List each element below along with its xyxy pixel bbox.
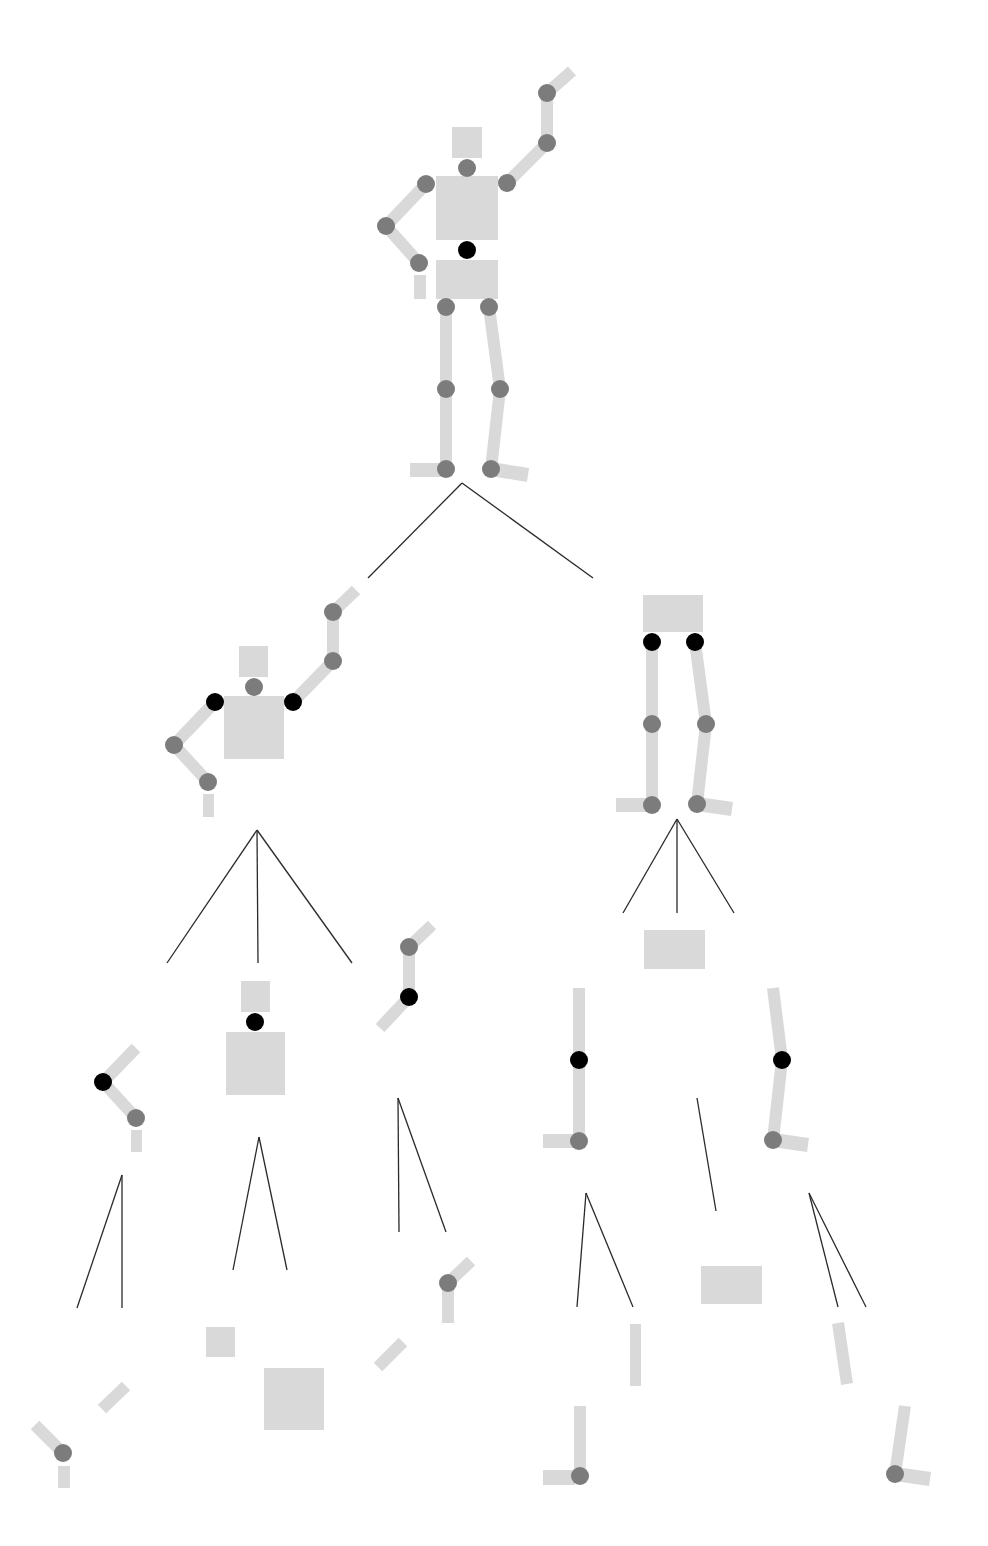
edge-line bbox=[398, 1098, 446, 1232]
node-full-body bbox=[377, 71, 572, 478]
elbow-cut-joint-icon bbox=[400, 988, 418, 1006]
waist-cut-joint-icon bbox=[458, 241, 476, 259]
leaf-torso bbox=[264, 1368, 324, 1430]
left-ankle-joint-icon bbox=[643, 796, 661, 814]
ankle-joint-icon bbox=[764, 1131, 782, 1149]
right-elbow-joint-icon bbox=[538, 134, 556, 152]
foot-segment bbox=[543, 1470, 575, 1485]
edge-line bbox=[257, 830, 352, 963]
ankle-joint-icon bbox=[570, 1132, 588, 1150]
edge-line bbox=[586, 1193, 633, 1307]
node-lower-body bbox=[616, 595, 732, 814]
elbow-cut-joint-icon bbox=[94, 1073, 112, 1091]
hand-segment bbox=[58, 1466, 70, 1488]
edge-left-arm-to-parts bbox=[77, 1175, 122, 1308]
left-wrist-joint-icon bbox=[410, 254, 428, 272]
right-ankle-joint-icon bbox=[688, 795, 706, 813]
left-shoulder-joint-icon bbox=[417, 175, 435, 193]
right-ankle-joint-icon bbox=[482, 460, 500, 478]
nodes-layer bbox=[35, 71, 930, 1488]
node-left-leg bbox=[543, 988, 588, 1150]
right-shoulder-cut-joint-icon bbox=[284, 693, 302, 711]
neck-joint-icon bbox=[245, 678, 263, 696]
leaf-right-upper-arm bbox=[378, 1342, 403, 1367]
node-right-leg bbox=[764, 988, 808, 1149]
right-knee-joint-icon bbox=[491, 380, 509, 398]
left-hand-segment bbox=[414, 275, 426, 299]
wrist-joint-icon bbox=[54, 1444, 72, 1462]
torso-segment bbox=[436, 176, 498, 240]
pelvis-segment bbox=[643, 595, 703, 632]
leaf-right-thigh bbox=[838, 1323, 847, 1384]
edge-left-leg-to-parts bbox=[577, 1193, 633, 1307]
pelvis-segment bbox=[436, 260, 498, 299]
head-segment bbox=[239, 646, 268, 677]
right-shin-segment bbox=[697, 724, 706, 804]
ankle-joint-icon bbox=[571, 1467, 589, 1485]
edge-line bbox=[257, 830, 258, 963]
left-hand-segment bbox=[203, 794, 214, 817]
torso-segment bbox=[264, 1368, 324, 1430]
leaf-pelvis bbox=[701, 1266, 762, 1304]
thigh-segment bbox=[773, 988, 782, 1060]
upper-arm-segment bbox=[378, 1342, 403, 1367]
edge-line bbox=[259, 1137, 287, 1270]
left-elbow-joint-icon bbox=[165, 736, 183, 754]
knee-cut-joint-icon bbox=[570, 1051, 588, 1069]
knee-cut-joint-icon bbox=[773, 1051, 791, 1069]
ankle-joint-icon bbox=[886, 1465, 904, 1483]
node-head-torso bbox=[226, 981, 285, 1095]
right-wrist-joint-icon bbox=[538, 84, 556, 102]
leaf-left-thigh bbox=[630, 1324, 641, 1386]
edge-right-arm-to-parts bbox=[398, 1098, 446, 1232]
edge-line bbox=[577, 1193, 586, 1307]
wrist-joint-icon bbox=[439, 1274, 457, 1292]
torso-segment bbox=[224, 696, 284, 759]
leaf-right-forearm-hand bbox=[439, 1261, 471, 1323]
edge-line bbox=[809, 1193, 866, 1307]
forearm-segment bbox=[442, 1290, 454, 1323]
leaf-left-shin-foot bbox=[543, 1406, 589, 1485]
left-knee-joint-icon bbox=[437, 380, 455, 398]
left-ankle-joint-icon bbox=[437, 460, 455, 478]
right-thigh-segment bbox=[695, 642, 706, 724]
node-pelvis bbox=[644, 930, 705, 969]
right-shoulder-joint-icon bbox=[498, 174, 516, 192]
right-hip-cut-joint-icon bbox=[686, 633, 704, 651]
right-wrist-joint-icon bbox=[324, 603, 342, 621]
leaf-right-shin-foot bbox=[886, 1406, 930, 1483]
edge-right-leg-to-parts bbox=[809, 1193, 866, 1307]
diagram-canvas bbox=[0, 0, 988, 1546]
head-segment bbox=[206, 1327, 235, 1357]
node-right-arm bbox=[380, 925, 432, 1028]
head-segment bbox=[241, 981, 270, 1012]
left-hip-joint-icon bbox=[437, 298, 455, 316]
right-hip-joint-icon bbox=[480, 298, 498, 316]
leaf-head bbox=[206, 1327, 235, 1357]
leaf-left-upper-arm bbox=[102, 1386, 126, 1409]
edge-line bbox=[398, 1098, 399, 1232]
edge-pelvis-to-pelvis bbox=[697, 1098, 716, 1211]
left-hip-cut-joint-icon bbox=[643, 633, 661, 651]
edges-layer bbox=[77, 483, 866, 1308]
edge-root-to-level1 bbox=[368, 483, 593, 578]
pelvis-segment bbox=[644, 930, 705, 969]
edge-line bbox=[462, 483, 593, 578]
right-thigh-segment bbox=[489, 307, 500, 389]
upper-arm-segment bbox=[102, 1386, 126, 1409]
leaf-left-forearm-hand bbox=[35, 1425, 72, 1488]
thigh-segment bbox=[838, 1323, 847, 1384]
left-wrist-joint-icon bbox=[199, 773, 217, 791]
edge-line bbox=[167, 830, 257, 963]
hand-segment bbox=[131, 1130, 142, 1152]
edge-line bbox=[233, 1137, 259, 1270]
left-knee-joint-icon bbox=[643, 715, 661, 733]
node-upper-body bbox=[165, 590, 356, 817]
edge-line bbox=[677, 819, 734, 913]
torso-segment bbox=[226, 1032, 285, 1095]
edge-line bbox=[368, 483, 462, 578]
wrist-joint-icon bbox=[400, 938, 418, 956]
pelvis-segment bbox=[701, 1266, 762, 1304]
edge-head-torso-to-parts bbox=[233, 1137, 287, 1270]
edge-upper-body-to-parts bbox=[167, 830, 352, 963]
